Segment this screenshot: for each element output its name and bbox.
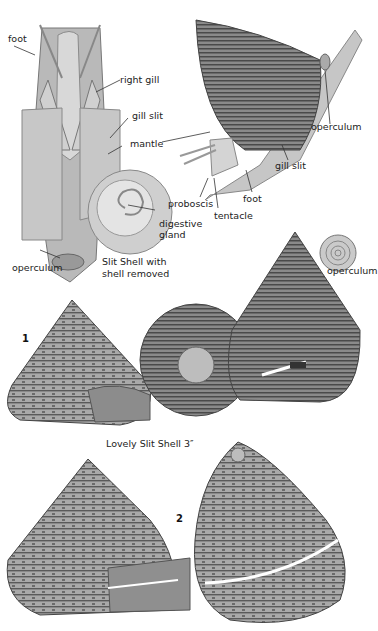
caption-line-2: shell removed: [102, 268, 169, 279]
label-operculum-detail: operculum: [327, 265, 378, 276]
label-digestive: digestive: [159, 218, 202, 229]
plate-illustrations: [0, 0, 378, 631]
label-right-gill: right gill: [120, 74, 159, 85]
species-number-1: 1: [22, 333, 29, 344]
label-operculum-live: operculum: [311, 121, 362, 132]
label-foot-dissected: foot: [8, 33, 27, 44]
species-2-shell-dorsal: [194, 442, 345, 623]
label-gill-slit-live: gill slit: [275, 160, 306, 171]
species-number-2: 2: [176, 513, 183, 524]
label-proboscis: proboscis: [168, 198, 213, 209]
dissected-animal-figure: [22, 25, 172, 282]
species-2-shell-apertural: [7, 459, 190, 615]
illustration-plate: foot right gill gill slit mantle digesti…: [0, 0, 378, 631]
label-digestive-gland: digestive gland: [159, 218, 202, 240]
label-gill-slit-dissected: gill slit: [132, 110, 163, 121]
label-operculum-dissected: operculum: [12, 262, 63, 273]
caption-line-1: Slit Shell with: [102, 256, 166, 267]
label-mantle: mantle: [130, 138, 163, 149]
species-1-caption: Lovely Slit Shell 3″: [106, 438, 194, 450]
live-animal-figure: [180, 20, 362, 200]
caption-dissected: Slit Shell with shell removed: [102, 256, 169, 280]
label-tentacle: tentacle: [214, 210, 253, 221]
label-gland: gland: [159, 229, 186, 240]
species-1-shell-apertural: [8, 300, 151, 425]
label-foot-live: foot: [243, 193, 262, 204]
